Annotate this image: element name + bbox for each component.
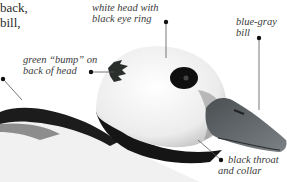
dot-throat	[219, 158, 223, 162]
cut-text-line-1: back,	[0, 0, 28, 15]
label-bill-line-1: blue-gray	[236, 16, 277, 27]
dot-back	[1, 77, 5, 81]
dot-head	[164, 20, 168, 24]
bird-diagram: back, bill, white head with black eye ri…	[0, 0, 287, 182]
label-bump: green “bump” on back of head	[23, 54, 97, 76]
label-head: white head with black eye ring	[92, 2, 159, 24]
label-bill: blue-gray bill	[236, 16, 277, 38]
label-head-line-2: black eye ring	[92, 13, 159, 24]
label-throat-line-2: and collar	[218, 165, 279, 176]
label-throat-line-1: black throat	[228, 154, 279, 165]
label-bill-line-2: bill	[236, 27, 277, 38]
cut-text-line-2: bill,	[0, 15, 21, 30]
label-bump-line-1: green “bump” on	[23, 54, 97, 65]
label-throat: black throat and collar	[228, 154, 279, 176]
leader-back	[3, 79, 22, 100]
eye	[184, 76, 189, 81]
label-head-line-1: white head with	[92, 2, 159, 13]
label-bump-line-2: back of head	[23, 65, 97, 76]
